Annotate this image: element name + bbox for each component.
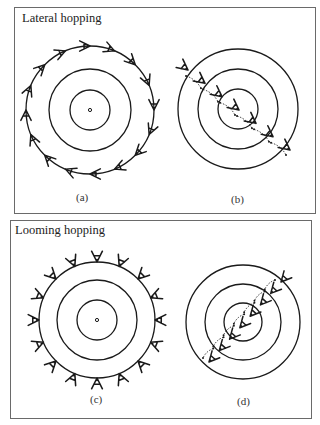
hop-dot bbox=[268, 141, 270, 143]
observer-icon bbox=[246, 305, 261, 320]
hop-dot bbox=[270, 142, 272, 144]
observer-icon bbox=[210, 86, 225, 101]
hop-dot bbox=[212, 348, 214, 350]
hop-dot bbox=[243, 311, 245, 313]
observer-icon bbox=[236, 317, 251, 332]
observer-icon bbox=[45, 268, 60, 283]
diagram-canvas bbox=[0, 0, 320, 425]
hop-dot bbox=[264, 290, 266, 292]
center-dot bbox=[88, 108, 91, 111]
observer-icon bbox=[45, 357, 60, 372]
observer-icon bbox=[114, 372, 128, 386]
observer-icon bbox=[114, 254, 128, 268]
hop-dot bbox=[223, 336, 225, 338]
observer-icon bbox=[92, 251, 103, 262]
hop-dot bbox=[253, 128, 255, 130]
observer-icon bbox=[155, 315, 166, 326]
observer-icon bbox=[205, 351, 220, 366]
observer-icon bbox=[28, 315, 39, 326]
center-dot bbox=[95, 318, 98, 321]
observer-icon bbox=[227, 99, 242, 114]
ring-0 bbox=[77, 300, 117, 340]
observer-icon bbox=[176, 59, 191, 74]
ring-0 bbox=[70, 90, 110, 130]
hop-dot bbox=[223, 334, 225, 336]
observer-icon bbox=[92, 378, 103, 389]
hop-dot bbox=[233, 325, 235, 327]
observer-icon bbox=[261, 126, 276, 141]
hop-dot bbox=[217, 101, 219, 103]
ring-1 bbox=[49, 69, 131, 151]
hop-dot bbox=[274, 279, 276, 281]
observer-icon bbox=[134, 357, 149, 372]
hop-dot bbox=[264, 288, 266, 290]
hop-dot bbox=[202, 357, 204, 359]
hop-dot bbox=[200, 87, 202, 89]
hop-dot bbox=[219, 102, 221, 104]
observer-icon bbox=[149, 289, 163, 303]
figure-b bbox=[176, 49, 298, 169]
figure-c bbox=[28, 251, 166, 389]
observer-icon bbox=[31, 337, 45, 351]
hop-dot bbox=[253, 302, 255, 304]
hop-dot bbox=[185, 75, 187, 77]
hop-dot bbox=[234, 114, 236, 116]
hop-dot bbox=[285, 154, 287, 156]
hop-dot bbox=[202, 88, 204, 90]
hop-dot bbox=[233, 323, 235, 325]
observer-icon bbox=[257, 294, 272, 309]
observer-icon bbox=[31, 289, 45, 303]
observer-icon bbox=[66, 254, 80, 268]
observer-icon bbox=[149, 337, 163, 351]
observer-icon bbox=[215, 339, 230, 354]
figure-d bbox=[186, 265, 300, 379]
figure-a bbox=[21, 41, 159, 179]
hop-dot bbox=[243, 313, 245, 315]
ring-1 bbox=[57, 280, 137, 360]
hop-dot bbox=[253, 300, 255, 302]
hop-dot bbox=[212, 346, 214, 348]
observer-icon bbox=[66, 372, 80, 386]
observer-icon bbox=[134, 268, 149, 283]
hop-dot bbox=[236, 115, 238, 117]
hop-dot bbox=[251, 127, 253, 129]
